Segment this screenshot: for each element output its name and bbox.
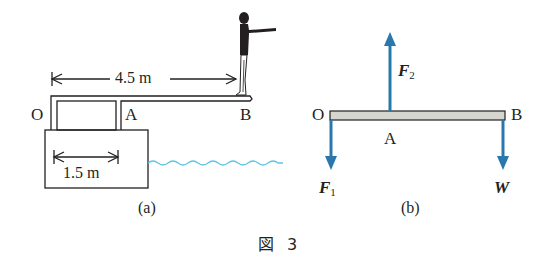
beam bbox=[330, 111, 505, 120]
point-label-a-a: A bbox=[125, 106, 137, 123]
dimension-label-4-5m: 4.5 m bbox=[115, 70, 151, 86]
diver-figure bbox=[236, 12, 276, 95]
panel-b-drawing bbox=[325, 32, 509, 170]
force-arrow-f1 bbox=[325, 120, 337, 170]
dimension-label-1-5m: 1.5 m bbox=[63, 165, 99, 181]
force-label-f1: F1 bbox=[319, 179, 336, 198]
force-w-name: W bbox=[494, 178, 509, 197]
figure-caption: 図 3 bbox=[258, 237, 301, 253]
force-label-w: W bbox=[494, 179, 509, 196]
force-f2-subscript: 2 bbox=[409, 69, 415, 81]
force-arrow-w bbox=[497, 120, 509, 170]
force-f1-name: F bbox=[319, 178, 330, 197]
force-label-f2: F2 bbox=[398, 62, 415, 81]
force-f2-name: F bbox=[398, 61, 409, 80]
dimension-1-5m bbox=[54, 150, 118, 164]
panel-b-caption: (b) bbox=[401, 200, 420, 216]
panel-a-caption: (a) bbox=[138, 200, 156, 216]
point-label-a-b: A bbox=[384, 130, 396, 147]
point-label-b-a: B bbox=[240, 106, 251, 123]
point-label-o-b: O bbox=[312, 106, 324, 123]
support-opening bbox=[57, 101, 116, 130]
point-label-b-b: B bbox=[511, 106, 522, 123]
point-label-o-a: O bbox=[31, 106, 43, 123]
force-arrow-f2 bbox=[384, 32, 396, 111]
force-f1-subscript: 1 bbox=[330, 186, 336, 198]
water-surface bbox=[148, 161, 283, 165]
